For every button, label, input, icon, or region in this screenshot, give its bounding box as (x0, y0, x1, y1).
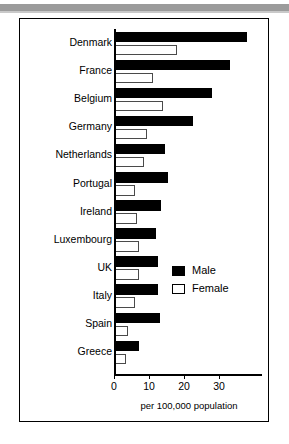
outlined-square-icon (172, 284, 185, 294)
bar-row: Italy (20, 283, 270, 311)
bar-female-greece (114, 354, 126, 365)
legend-label-male: Male (192, 265, 216, 276)
bar-row: UK (20, 255, 270, 283)
bar-row: France (20, 58, 270, 86)
category-label-france: France (12, 64, 112, 76)
bar-male-greece (114, 341, 139, 352)
bar-row: Luxembourg (20, 227, 270, 255)
chart-legend: Male Female (172, 265, 229, 301)
bar-female-ireland (114, 213, 137, 224)
bar-male-france (114, 60, 230, 71)
category-label-luxembourg: Luxembourg (12, 233, 112, 245)
x-tick-10 (149, 375, 150, 379)
category-label-spain: Spain (12, 317, 112, 329)
x-axis-line (114, 374, 262, 376)
bar-row: Ireland (20, 199, 270, 227)
bar-male-spain (114, 313, 160, 324)
category-label-germany: Germany (12, 120, 112, 132)
legend-label-female: Female (192, 283, 229, 294)
bar-male-italy (114, 284, 158, 295)
category-label-netherlands: Netherlands (12, 148, 112, 160)
bar-male-luxembourg (114, 228, 156, 239)
category-label-italy: Italy (12, 289, 112, 301)
bar-row: Germany (20, 114, 270, 142)
category-label-belgium: Belgium (12, 92, 112, 104)
bar-female-portugal (114, 185, 135, 196)
category-label-uk: UK (12, 261, 112, 273)
bar-female-luxembourg (114, 241, 139, 252)
category-label-portugal: Portugal (12, 177, 112, 189)
bar-female-spain (114, 326, 128, 337)
x-tick-label-20: 20 (169, 380, 199, 392)
x-tick-20 (184, 375, 185, 379)
bar-female-belgium (114, 101, 163, 112)
y-axis-line (114, 29, 116, 375)
bar-male-germany (114, 116, 193, 127)
bar-female-italy (114, 297, 135, 308)
filled-square-icon (172, 266, 185, 276)
x-tick-0 (114, 375, 115, 379)
top-decoration-band (0, 4, 289, 11)
bar-male-portugal (114, 172, 168, 183)
x-tick-label-10: 10 (134, 380, 164, 392)
bar-male-ireland (114, 200, 161, 211)
x-tick-30 (219, 375, 220, 379)
bar-row: Denmark (20, 30, 270, 58)
bar-row: Belgium (20, 86, 270, 114)
bar-female-france (114, 73, 153, 84)
x-axis-label: per 100,000 population (114, 400, 264, 411)
legend-item-male: Male (172, 265, 229, 276)
bar-row: Spain (20, 311, 270, 339)
bar-female-uk (114, 269, 139, 280)
bar-female-denmark (114, 45, 177, 56)
top-decoration-band-shadow (0, 11, 289, 13)
bar-male-belgium (114, 88, 212, 99)
bar-male-uk (114, 256, 158, 267)
chart-figure-frame: DenmarkFranceBelgiumGermanyNetherlandsPo… (19, 18, 269, 422)
category-label-ireland: Ireland (12, 205, 112, 217)
category-label-denmark: Denmark (12, 36, 112, 48)
bar-female-netherlands (114, 157, 144, 168)
category-label-greece: Greece (12, 345, 112, 357)
chart-plot-area: DenmarkFranceBelgiumGermanyNetherlandsPo… (20, 19, 270, 423)
bar-row: Netherlands (20, 142, 270, 170)
bar-male-denmark (114, 32, 247, 43)
bar-row: Greece (20, 339, 270, 367)
legend-item-female: Female (172, 283, 229, 294)
bar-row: Portugal (20, 171, 270, 199)
bar-male-netherlands (114, 144, 165, 155)
x-tick-label-0: 0 (99, 380, 129, 392)
x-tick-label-30: 30 (204, 380, 234, 392)
bar-female-germany (114, 129, 147, 140)
